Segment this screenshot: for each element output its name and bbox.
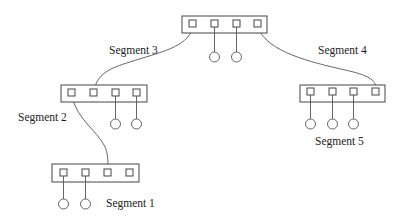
host-node-icon xyxy=(232,52,242,62)
host-node-icon xyxy=(328,119,338,129)
label-segment-2: Segment 2 xyxy=(18,111,67,124)
link-segment-4 xyxy=(258,28,376,88)
label-segment-5: Segment 5 xyxy=(315,135,364,148)
segment-5-hub xyxy=(300,85,385,129)
host-node-icon xyxy=(111,119,121,129)
port-icon xyxy=(254,20,261,27)
port-icon xyxy=(329,88,336,95)
port-icon xyxy=(60,169,67,176)
host-node-icon xyxy=(306,119,316,129)
port-icon xyxy=(68,89,75,96)
label-segment-3: Segment 3 xyxy=(109,44,158,57)
port-icon xyxy=(350,88,357,95)
top-hub xyxy=(182,16,267,62)
port-icon xyxy=(307,88,314,95)
link-segment-3 xyxy=(94,28,193,92)
segment-2-hub xyxy=(61,85,147,129)
port-icon xyxy=(189,20,196,27)
network-segment-diagram: Segment 3 Segment 4 Segment 2 Segment 5 … xyxy=(0,0,404,220)
port-icon xyxy=(82,169,89,176)
host-node-icon xyxy=(81,199,91,209)
label-segment-1: Segment 1 xyxy=(106,197,155,210)
port-icon xyxy=(126,169,133,176)
port-icon xyxy=(211,20,218,27)
link-segment-2-to-1 xyxy=(72,97,108,169)
host-node-icon xyxy=(132,119,142,129)
port-icon xyxy=(90,89,97,96)
port-icon xyxy=(133,89,140,96)
port-icon xyxy=(112,89,119,96)
host-node-icon xyxy=(349,119,359,129)
host-node-icon xyxy=(210,52,220,62)
port-icon xyxy=(104,169,111,176)
port-icon xyxy=(372,88,379,95)
label-segment-4: Segment 4 xyxy=(318,44,367,57)
host-node-icon xyxy=(59,199,69,209)
port-icon xyxy=(233,20,240,27)
